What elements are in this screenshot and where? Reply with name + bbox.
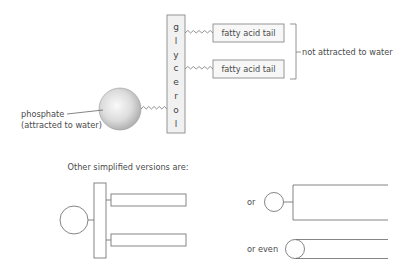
phosphate-sublabel: (attracted to water) <box>21 120 102 130</box>
glycerol-bar: g l y c e r o l <box>167 15 185 133</box>
bracket-label: not attracted to water <box>302 47 393 57</box>
glycerol-letter: r <box>174 91 178 101</box>
alt2-label: or even <box>247 244 278 254</box>
glycerol-letter: y <box>173 50 179 60</box>
glycerol-letter: e <box>173 77 179 87</box>
tail-bond-2 <box>185 67 213 70</box>
simplified-version-full <box>60 183 186 258</box>
phosphate-head <box>99 88 141 130</box>
fatty-acid-tail-2: fatty acid tail <box>213 60 284 78</box>
glycerol-letter: l <box>175 119 178 129</box>
glycerol-letter: l <box>175 36 178 46</box>
tail-label: fatty acid tail <box>221 64 275 74</box>
glycerol-letter: o <box>173 105 179 115</box>
simplified-version-lines <box>265 185 389 220</box>
alt1-label: or <box>247 197 256 207</box>
fatty-acid-tail-1: fatty acid tail <box>213 24 284 42</box>
glycerol-letter: g <box>173 22 179 32</box>
phosphate-bond <box>141 107 167 110</box>
bracket <box>290 24 296 79</box>
simplified-heading: Other simplified versions are: <box>68 162 189 172</box>
glycerol-letter: c <box>174 63 179 73</box>
tail-label: fatty acid tail <box>221 28 275 38</box>
phosphate-pointer-line <box>67 110 103 114</box>
tail-bond-1 <box>185 31 213 34</box>
phospholipid-diagram: phosphate (attracted to water) g l y c e… <box>0 0 408 269</box>
simplified-version-minimal <box>286 240 389 259</box>
phosphate-label: phosphate <box>21 109 64 119</box>
